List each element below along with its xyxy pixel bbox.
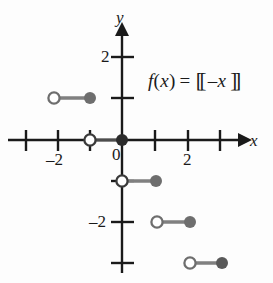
open-point-0--1 bbox=[116, 175, 127, 186]
step-segments-group bbox=[54, 98, 223, 263]
open-point-2--3 bbox=[184, 257, 195, 268]
function-close-paren: ) bbox=[169, 70, 176, 91]
axes-group bbox=[8, 22, 252, 273]
y-axis-label: y bbox=[116, 9, 124, 26]
closed-point--1-1 bbox=[84, 92, 96, 104]
bracket-open-icon: [[ bbox=[195, 68, 205, 92]
open-point-1--2 bbox=[151, 216, 162, 227]
function-equals: = bbox=[176, 70, 195, 91]
origin-label: 0 bbox=[112, 146, 121, 163]
x-tick-label-2: 2 bbox=[183, 151, 192, 168]
closed-point-2--2 bbox=[184, 216, 196, 228]
closed-point-3--3 bbox=[216, 257, 228, 269]
y-tick-label-2: 2 bbox=[101, 48, 110, 65]
open-point--1-0 bbox=[84, 134, 95, 145]
step-function-graph: x y 0 2 –2 –2 2 f(x)=[[–x]] bbox=[0, 0, 273, 283]
function-inner-expression: –x bbox=[205, 70, 230, 91]
open-point--2-1 bbox=[48, 92, 59, 103]
function-variable: x bbox=[160, 70, 169, 91]
graph-canvas bbox=[0, 0, 273, 283]
closed-point-1--1 bbox=[150, 175, 162, 187]
y-tick-label--2: –2 bbox=[89, 213, 106, 230]
x-axis-label: x bbox=[250, 132, 258, 149]
bracket-close-icon: ]] bbox=[229, 68, 239, 92]
function-annotation: f(x)=[[–x]] bbox=[148, 70, 239, 91]
x-tick-label--2: –2 bbox=[46, 151, 63, 168]
closed-endpoints-group bbox=[84, 92, 228, 269]
